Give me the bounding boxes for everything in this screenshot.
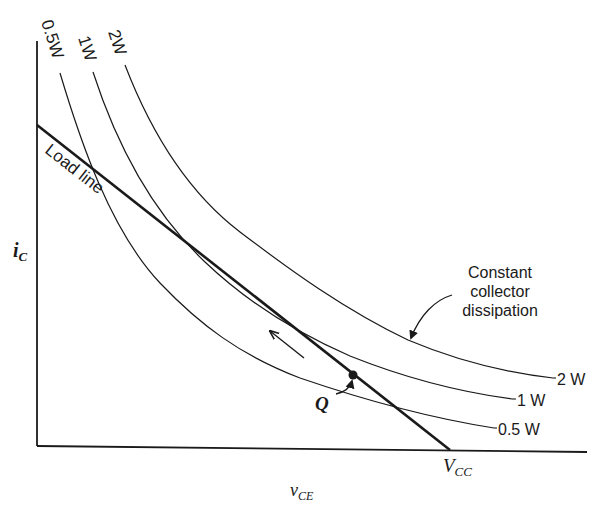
label-right-0.5w: 0.5 W — [498, 421, 541, 438]
x-axis — [37, 446, 587, 452]
annotation-line-1: Constant — [468, 264, 533, 281]
annotation-arrow — [411, 295, 452, 338]
annotation-line-3: dissipation — [462, 302, 538, 319]
label-top-0.5w: 0.5W — [37, 17, 67, 61]
axes — [37, 41, 587, 452]
annotation-line-2: collector — [470, 283, 530, 300]
y-axis-label: iC — [13, 239, 28, 264]
label-top-1w: 1W — [74, 33, 100, 63]
q-label: Q — [315, 393, 329, 414]
direction-arrow — [270, 331, 304, 358]
load-line-label: Load line — [42, 140, 108, 197]
dissipation-curves — [60, 65, 553, 428]
load-line — [37, 125, 450, 450]
annotation-label: Constant collector dissipation — [462, 264, 538, 319]
q-point — [349, 371, 358, 380]
label-right-1w: 1 W — [517, 392, 546, 409]
x-axis-label: vCE — [290, 480, 314, 503]
curve-0.5w — [60, 73, 494, 428]
curve-2w — [125, 65, 553, 378]
curve-1w — [93, 72, 512, 399]
load-line-diagram: 0.5W 1W 2W 2 W 1 W 0.5 W Load line Const… — [0, 0, 598, 510]
vcc-label: VCC — [443, 455, 472, 479]
label-top-2w: 2W — [104, 27, 130, 57]
label-right-2w: 2 W — [557, 371, 586, 388]
